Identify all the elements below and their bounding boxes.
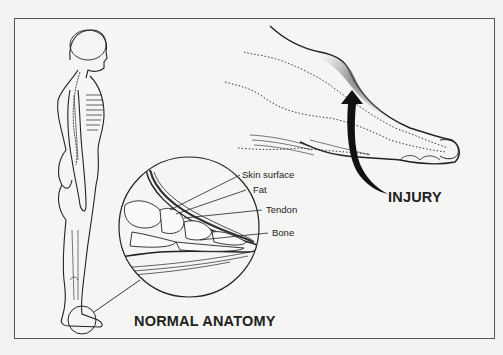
injury-arrow xyxy=(341,90,388,194)
normal-anatomy-title: NORMAL ANATOMY xyxy=(134,313,276,329)
callout-bone: Bone xyxy=(272,227,294,238)
callout-fat: Fat xyxy=(253,184,267,195)
callout-skin-surface: Skin surface xyxy=(242,169,294,180)
magnify-connector xyxy=(94,280,140,312)
injured-foot xyxy=(225,26,459,164)
callout-tendon: Tendon xyxy=(266,204,297,215)
standing-figure xyxy=(58,30,107,327)
injury-title: INJURY xyxy=(388,189,442,205)
magnified-foot xyxy=(115,157,259,297)
